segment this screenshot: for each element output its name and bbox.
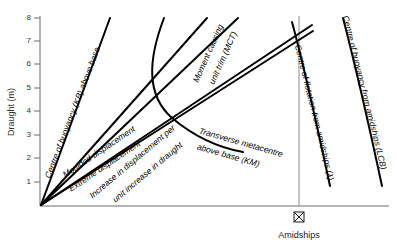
- amidships-marker-group: Amidships: [278, 212, 320, 240]
- curve-label-lcb: Centre of buoyancy from amidships (LCB): [341, 15, 389, 171]
- y-axis-title: Draught (m): [6, 88, 16, 136]
- y-tick-label-4: 4: [27, 106, 32, 115]
- amidships-caption: Amidships: [278, 230, 320, 240]
- y-tick-label-1: 1: [27, 177, 32, 186]
- hydrostatic-curves-figure: 8 7 6 5 4 3 2 1 Draught (m): [0, 0, 397, 249]
- y-tick-label-5: 5: [27, 83, 32, 92]
- y-tick-label-8: 8: [27, 13, 32, 22]
- y-tick-label-3: 3: [27, 130, 32, 139]
- y-tick-label-6: 6: [27, 59, 32, 68]
- plot-area: 8 7 6 5 4 3 2 1 Draught (m): [0, 0, 397, 249]
- curve-labels-group: Centre of buoyancy (KB) above base Mould…: [43, 15, 389, 205]
- y-tick-label-7: 7: [27, 36, 32, 45]
- y-tick-label-2: 2: [27, 153, 32, 162]
